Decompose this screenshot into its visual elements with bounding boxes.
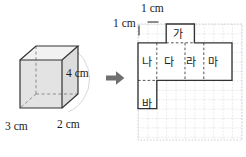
grid-unit-tick-top [147, 17, 159, 23]
dimension-label-height: 4 cm [66, 68, 89, 80]
net-face-label-ma: 마 [208, 57, 218, 68]
prism-net-figure: 1 cm 1 cm 가 나 다 [0, 0, 246, 157]
net-face-label-na: 나 [142, 57, 152, 68]
net-diagram [138, 24, 242, 140]
net-face-label-ra: 라 [186, 57, 196, 68]
net-face-label-ga: 가 [173, 29, 183, 40]
grid-unit-label-left: 1 cm [113, 18, 136, 30]
dimension-label-depth: 2 cm [57, 119, 80, 131]
right-arrow-icon [106, 70, 125, 86]
prism-front-face [20, 60, 62, 108]
dimension-label-width: 3 cm [5, 121, 28, 133]
grid-unit-label-top: 1 cm [141, 3, 164, 15]
net-face-label-ba: 바 [142, 99, 152, 110]
net-face-label-da: 다 [164, 57, 174, 68]
